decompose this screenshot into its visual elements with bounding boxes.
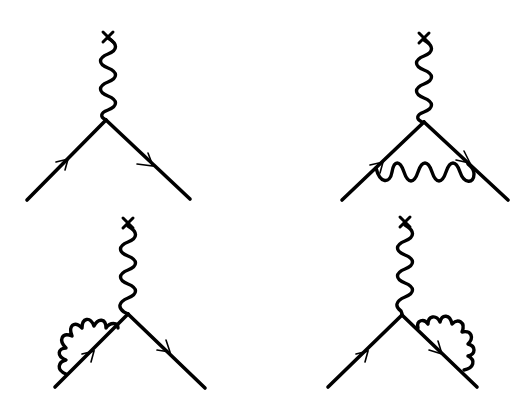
- outgoing-fermion-line: [106, 120, 190, 199]
- outgoing-fermion-line: [402, 315, 477, 387]
- loop-photon-line: [376, 163, 474, 181]
- self-energy-photon-loop: [418, 316, 474, 370]
- diagram-incoming-self-energy: [55, 218, 205, 388]
- photon-line: [101, 38, 116, 120]
- diagram-outgoing-self-energy: [328, 217, 477, 387]
- self-energy-photon-loop: [59, 319, 118, 374]
- diagram-tree-vertex: [27, 32, 190, 200]
- photon-line: [120, 226, 136, 314]
- outgoing-fermion-line: [424, 122, 508, 200]
- photon-line: [417, 40, 432, 122]
- photon-line: [397, 225, 413, 315]
- diagram-vertex-correction: [342, 33, 508, 200]
- incoming-fermion-line: [342, 122, 424, 200]
- feynman-diagrams-figure: [0, 0, 528, 419]
